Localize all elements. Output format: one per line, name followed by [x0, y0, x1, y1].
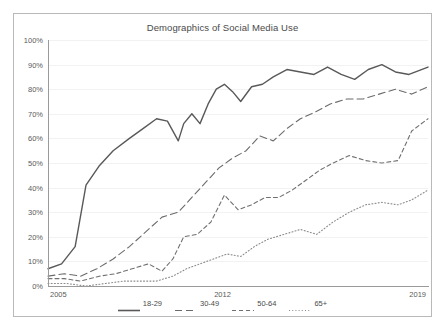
y-axis-tick-label: 80% [28, 85, 43, 94]
legend-label: 30-49 [200, 299, 219, 308]
y-axis-tick-label: 70% [28, 109, 43, 118]
legend-label: 65+ [314, 299, 327, 308]
legend-item-65+[interactable]: 65+ [289, 299, 327, 308]
x-axis-tick-start: 2005 [50, 290, 67, 299]
legend-swatch-icon [175, 300, 197, 307]
x-axis-line [48, 286, 429, 287]
y-axis-tick-label: 20% [28, 232, 43, 241]
series-line-30-49 [48, 87, 428, 276]
y-axis-tick-label: 100% [24, 36, 43, 45]
y-axis-tick-label: 30% [28, 208, 43, 217]
legend-label: 18-29 [143, 299, 162, 308]
legend-item-18-29[interactable]: 18-29 [118, 299, 162, 308]
chart-legend: 18-2930-4950-6465+ [14, 299, 431, 308]
chart-container: Demographics of Social Media Use 0%10%20… [13, 13, 432, 317]
legend-swatch-icon [232, 300, 254, 307]
plot-area: 0%10%20%30%40%50%60%70%80%90%100% [48, 40, 428, 286]
y-axis-tick-label: 0% [32, 282, 43, 291]
plot-wrapper: 0%10%20%30%40%50%60%70%80%90%100% 2005 2… [14, 14, 431, 316]
legend-swatch-icon [289, 300, 311, 307]
y-axis-line [48, 40, 49, 287]
legend-item-30-49[interactable]: 30-49 [175, 299, 219, 308]
x-axis-tick-end: 2019 [409, 290, 426, 299]
y-axis-tick-label: 40% [28, 183, 43, 192]
legend-item-50-64[interactable]: 50-64 [232, 299, 276, 308]
series-line-65+ [48, 190, 428, 286]
y-axis-tick-label: 90% [28, 60, 43, 69]
y-axis-tick-label: 60% [28, 134, 43, 143]
series-lines [48, 40, 428, 286]
y-axis-tick-label: 10% [28, 257, 43, 266]
x-axis-tick-mid: 2012 [214, 290, 231, 299]
y-axis-tick-label: 50% [28, 159, 43, 168]
series-line-18-29 [48, 65, 428, 269]
series-line-50-64 [48, 119, 428, 281]
legend-swatch-icon [118, 300, 140, 307]
legend-label: 50-64 [257, 299, 276, 308]
